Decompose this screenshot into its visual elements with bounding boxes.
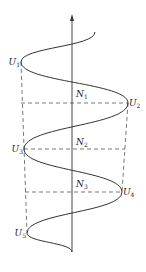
label-u5: U5 [15, 228, 27, 239]
label-n2: N2 [75, 137, 88, 148]
point-labels: U1U2U3U4U5N1N2N3 [9, 57, 141, 239]
label-n3: N3 [75, 179, 88, 190]
label-u3: U3 [12, 144, 24, 155]
arrow-up-icon [70, 14, 74, 21]
dashed-vertical-line-2 [122, 103, 128, 192]
vertical-axis [70, 14, 74, 252]
wave-diagram: U1U2U3U4U5N1N2N3 [0, 0, 146, 272]
label-n1: N1 [75, 89, 88, 100]
dashed-guides [21, 62, 128, 233]
wave-curve [21, 32, 128, 252]
sine-curve [21, 32, 128, 252]
label-u4: U4 [123, 187, 135, 198]
label-u1: U1 [9, 57, 20, 68]
label-u2: U2 [129, 98, 141, 109]
